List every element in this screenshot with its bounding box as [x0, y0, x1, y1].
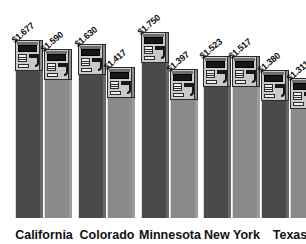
- pump-display-icon: [264, 75, 283, 82]
- bar-gas-pump: [170, 69, 198, 218]
- pump-slot-icon: [173, 93, 184, 97]
- category-label-california: California: [15, 228, 73, 242]
- category-label-colorado: Colorado: [80, 228, 135, 242]
- bar-gas-pump: [261, 70, 289, 218]
- pump-display-icon: [206, 61, 225, 68]
- pump-slot-icon: [18, 64, 29, 68]
- pump-slot-icon: [110, 91, 121, 95]
- gas-pump-icon: [78, 44, 106, 75]
- bar-column: [141, 62, 169, 218]
- bar-gas-pump: [78, 44, 106, 218]
- gas-pump-icon: [141, 32, 169, 63]
- gas-pump-icon: [203, 56, 231, 87]
- bar-column: [232, 86, 260, 218]
- pump-display-icon: [293, 83, 306, 90]
- pump-slot-icon: [235, 80, 246, 84]
- bar-gas-pump: [141, 32, 169, 218]
- pump-display-icon: [235, 61, 254, 68]
- bar-gas-pump: [203, 56, 231, 218]
- pump-display-icon: [47, 54, 66, 61]
- pump-slot-icon: [293, 102, 304, 106]
- pump-keypad-icon: [47, 63, 56, 71]
- pump-keypad-icon: [173, 83, 182, 91]
- bar-column: [44, 79, 72, 218]
- pump-display-icon: [81, 49, 100, 56]
- pump-slot-icon: [206, 80, 217, 84]
- pump-riser-icon: [227, 57, 230, 86]
- bar-gas-pump: [44, 49, 72, 218]
- pump-keypad-icon: [81, 58, 90, 66]
- gas-pump-icon: [232, 56, 260, 87]
- pump-display-icon: [144, 37, 163, 44]
- gas-pump-icon: [107, 67, 135, 98]
- pump-keypad-icon: [293, 92, 302, 100]
- gas-pump-icon: [290, 78, 306, 109]
- bar-column: [107, 97, 135, 218]
- pump-slot-icon: [47, 73, 58, 77]
- pump-keypad-icon: [144, 46, 153, 54]
- pump-display-icon: [173, 74, 192, 81]
- bar-column: [203, 86, 231, 218]
- bar-gas-pump: [107, 67, 135, 218]
- category-label-texas: Texas: [273, 228, 306, 242]
- pump-nozzle-icon: [304, 92, 306, 96]
- bar-gas-pump: [290, 78, 306, 218]
- pump-riser-icon: [131, 68, 134, 97]
- bar-column: [290, 108, 306, 218]
- pump-display-icon: [18, 45, 37, 52]
- bar-column: [170, 99, 198, 218]
- pump-keypad-icon: [110, 81, 119, 89]
- category-label-minnesota: Minnesota: [139, 228, 201, 242]
- bar-column: [15, 70, 43, 218]
- pump-keypad-icon: [235, 70, 244, 78]
- gas-pump-icon: [44, 49, 72, 80]
- pump-slot-icon: [264, 94, 275, 98]
- pump-riser-icon: [165, 33, 168, 62]
- pump-keypad-icon: [264, 84, 273, 92]
- pump-keypad-icon: [18, 54, 27, 62]
- pump-display-icon: [110, 72, 129, 79]
- gas-price-bar-chart: $1.677$1.590$1.630$1.417$1.750$1.397$1.5…: [0, 0, 306, 244]
- gas-pump-icon: [170, 69, 198, 100]
- pump-slot-icon: [144, 56, 155, 60]
- bar-gas-pump: [232, 56, 260, 218]
- pump-riser-icon: [68, 50, 71, 79]
- pump-keypad-icon: [206, 70, 215, 78]
- pump-riser-icon: [194, 70, 197, 99]
- gas-pump-icon: [15, 40, 43, 71]
- category-label-new-york: New York: [204, 228, 260, 242]
- bar-column: [78, 74, 106, 218]
- bar-gas-pump: [15, 40, 43, 218]
- pump-slot-icon: [81, 68, 92, 72]
- pump-riser-icon: [102, 45, 105, 74]
- bar-column: [261, 100, 289, 218]
